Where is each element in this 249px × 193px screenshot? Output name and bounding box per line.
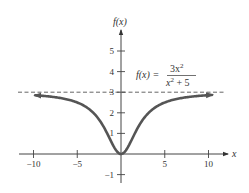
y-tick-label: 5 <box>110 46 115 56</box>
y-axis-label: f(x) <box>113 16 128 28</box>
y-tick-label: 4 <box>110 67 115 77</box>
formula-lhs: f(x) = <box>136 69 159 81</box>
svg-text:f(x) =: f(x) = <box>136 69 159 81</box>
function-graph: −10−5510 −112345 x f(x) f(x) = 3x2 x2 + … <box>0 0 249 193</box>
x-tick-label: −5 <box>72 159 82 169</box>
y-tick-label: 3 <box>110 87 115 97</box>
y-axis-ticks: −112345 <box>104 46 125 180</box>
function-curve <box>35 95 212 154</box>
x-axis-label: x <box>231 148 237 159</box>
formula-numerator: 3x2 <box>170 62 184 74</box>
y-tick-label: −1 <box>104 170 114 180</box>
x-tick-label: −10 <box>26 159 41 169</box>
y-tick-label: 2 <box>110 108 115 118</box>
x-tick-label: 5 <box>163 159 168 169</box>
formula-denominator: x2 + 5 <box>165 76 190 88</box>
formula-annotation: f(x) = 3x2 x2 + 5 <box>136 62 196 88</box>
x-tick-label: 10 <box>204 159 214 169</box>
